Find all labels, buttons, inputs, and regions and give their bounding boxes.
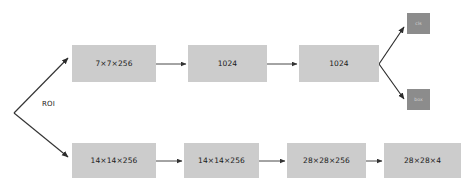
node-28x28x4[interactable]: 28×28×4	[384, 143, 461, 178]
node-14x14x256-a[interactable]: 14×14×256	[72, 143, 156, 178]
node-cls-output[interactable]: cls	[407, 13, 430, 34]
node-7x7x256[interactable]: 7×7×256	[72, 45, 156, 82]
node-fc-1024-a[interactable]: 1024	[188, 45, 267, 82]
arrow-t3-cls	[379, 27, 404, 64]
roi-to-top-branch-arrow	[14, 58, 68, 113]
node-fc-1024-b[interactable]: 1024	[299, 45, 379, 82]
arrow-t3-box	[379, 64, 404, 99]
diagram-canvas: ROI 7×7×256 1024 1024 cls box 14×14×256 …	[0, 0, 473, 189]
node-box-output[interactable]: box	[407, 89, 430, 110]
roi-label: ROI	[42, 100, 55, 108]
node-14x14x256-b[interactable]: 14×14×256	[184, 143, 259, 178]
node-28x28x256[interactable]: 28×28×256	[287, 143, 366, 178]
roi-to-bottom-branch-arrow	[14, 113, 68, 157]
